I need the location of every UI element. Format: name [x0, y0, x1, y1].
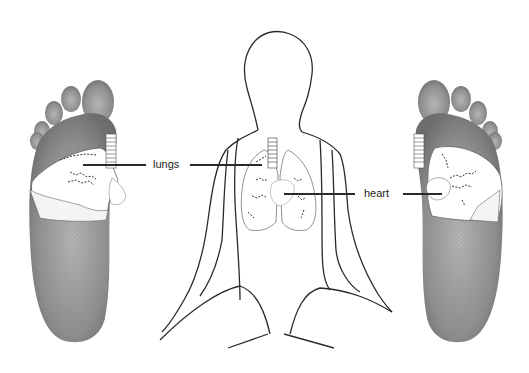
- left-foot: [29, 80, 126, 342]
- right-shoulder-arm: [302, 132, 392, 312]
- reflexology-diagram: lungs heart: [0, 0, 529, 373]
- left-trachea-zone: [106, 134, 116, 168]
- right-toe-2: [451, 86, 471, 112]
- left-toe-3: [45, 101, 63, 125]
- right-foot: [414, 80, 503, 342]
- right-inner-arm: [332, 150, 360, 292]
- diagram-canvas: [0, 0, 529, 373]
- right-leg-bottom: [284, 334, 334, 348]
- left-toe-2: [61, 86, 81, 112]
- right-torso-edge: [320, 140, 330, 290]
- lungs-label: lungs: [153, 158, 179, 170]
- right-trachea-zone: [414, 134, 424, 168]
- right-thigh: [290, 288, 392, 334]
- left-leg-bottom: [228, 334, 268, 348]
- diagram-title-cropped: [140, 0, 420, 4]
- heart-label: heart: [364, 187, 389, 199]
- left-heart-notch: [109, 178, 126, 205]
- trachea: [268, 138, 277, 168]
- left-foot-texture: [29, 113, 116, 342]
- body-lungs: [241, 138, 316, 231]
- left-inner-arm: [200, 150, 228, 296]
- left-torso-edge: [235, 138, 240, 300]
- head-outline: [244, 32, 312, 132]
- right-toe-3: [469, 101, 487, 125]
